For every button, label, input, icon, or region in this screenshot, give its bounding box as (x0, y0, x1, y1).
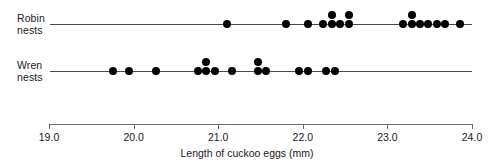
robin-nests-label-line2: nests (17, 24, 43, 36)
data-point-dot (322, 67, 330, 75)
data-point-dot (152, 67, 160, 75)
data-point-dot (125, 67, 133, 75)
x-axis-tick (218, 124, 219, 129)
data-point-dot (304, 67, 312, 75)
robin-nests-label-line1: Robin (17, 12, 45, 24)
data-point-dot (262, 67, 270, 75)
x-axis-tick (134, 124, 135, 129)
data-point-dot (424, 20, 432, 28)
data-point-dot (345, 11, 353, 19)
data-point-dot (304, 20, 312, 28)
x-axis-tick-label: 22.0 (293, 131, 313, 143)
x-axis-tick-label: 23.0 (377, 131, 397, 143)
data-point-dot (456, 20, 464, 28)
wren-nests-label-line2: nests (17, 71, 43, 83)
data-point-dot (336, 20, 344, 28)
cuckoo-egg-dotplot-figure: Robin nests Wren nests 19.020.021.022.02… (0, 0, 494, 166)
data-point-dot (223, 20, 231, 28)
data-point-dot (295, 67, 303, 75)
data-point-dot (441, 20, 449, 28)
wren-nests-label-line1: Wren (17, 59, 42, 71)
data-point-dot (202, 58, 210, 66)
x-axis-tick-label: 20.0 (123, 131, 143, 143)
data-point-dot (328, 11, 336, 19)
data-point-dot (109, 67, 117, 75)
x-axis-title: Length of cuckoo eggs (mm) (0, 147, 494, 159)
data-point-dot (408, 11, 416, 19)
x-axis-tick-label: 24.0 (462, 131, 482, 143)
data-point-dot (282, 20, 290, 28)
x-axis-tick (387, 124, 388, 129)
data-point-dot (399, 20, 407, 28)
data-point-dot (194, 67, 202, 75)
x-axis-tick-label: 19.0 (39, 131, 59, 143)
x-axis-tick (303, 124, 304, 129)
data-point-dot (416, 20, 424, 28)
data-point-dot (228, 67, 236, 75)
data-point-dot (202, 67, 210, 75)
data-point-dot (254, 58, 262, 66)
x-axis-scale-line (49, 124, 472, 125)
data-point-dot (319, 20, 327, 28)
data-point-dot (331, 67, 339, 75)
x-axis-tick-label: 21.0 (208, 131, 228, 143)
data-point-dot (345, 20, 353, 28)
x-axis-tick (472, 124, 473, 129)
data-point-dot (211, 67, 219, 75)
x-axis-tick (49, 124, 50, 129)
